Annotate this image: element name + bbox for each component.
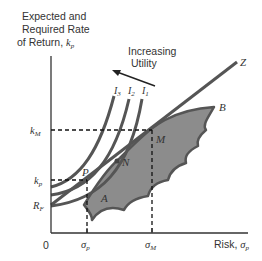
label-i3: I3 bbox=[113, 85, 121, 98]
label-i2: I2 bbox=[127, 85, 135, 98]
label-b: B bbox=[219, 101, 226, 113]
x-tick-sigma-m: σM bbox=[145, 239, 157, 252]
y-axis-label-line2: Required Rate bbox=[22, 23, 90, 35]
increasing-utility-arrow bbox=[117, 72, 155, 86]
annotation-line2: Utility bbox=[131, 57, 157, 69]
y-tick-rf: RF bbox=[32, 200, 44, 213]
annotation-line1: Increasing bbox=[128, 45, 177, 57]
label-p: P bbox=[81, 166, 89, 178]
y-axis-label-line1: Expected and bbox=[22, 10, 86, 22]
label-z: Z bbox=[240, 56, 247, 68]
label-m: M bbox=[155, 133, 166, 145]
label-n: N bbox=[121, 156, 130, 168]
origin-label: 0 bbox=[43, 239, 49, 251]
label-a: A bbox=[100, 192, 108, 204]
label-i1: I1 bbox=[141, 85, 149, 98]
x-tick-sigma-p: σp bbox=[81, 239, 90, 252]
capital-market-line-diagram: Expected and Required Rate of Return, kp… bbox=[0, 0, 262, 261]
x-axis-label: Risk, σp bbox=[214, 238, 249, 252]
y-tick-km: kM bbox=[30, 125, 42, 138]
y-axis-label-line3: of Return, kp bbox=[17, 36, 75, 50]
y-tick-kp: kp bbox=[34, 175, 43, 188]
point-n-marker bbox=[115, 159, 120, 164]
